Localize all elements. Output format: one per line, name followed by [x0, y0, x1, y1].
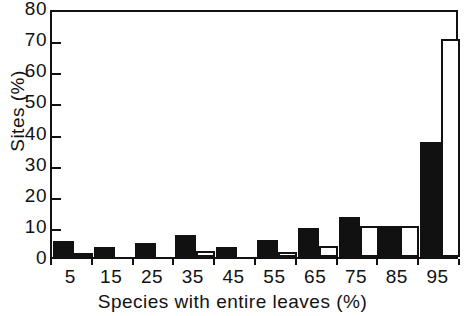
x-tick-mark [132, 259, 134, 265]
y-axis-tick-labels: 01020304050607080 [0, 0, 47, 316]
x-tick-mark [417, 259, 419, 265]
x-tick-label: 35 [173, 266, 213, 288]
y-tick-label: 40 [0, 124, 47, 143]
bar-solid [94, 247, 115, 257]
x-tick-label: 45 [214, 266, 254, 288]
bar-open [278, 252, 297, 257]
y-tick-mark [52, 104, 61, 106]
y-tick-label: 80 [0, 0, 47, 18]
bar-open [74, 253, 93, 257]
x-axis-label: Species with entire leaves (%) [0, 291, 465, 313]
y-tick-label: 0 [0, 248, 47, 267]
y-tick-label: 60 [0, 61, 47, 80]
bar-open [400, 226, 419, 257]
x-tick-mark [91, 259, 93, 265]
x-tick-mark [213, 259, 215, 265]
bar-solid [53, 241, 74, 257]
x-tick-mark [172, 259, 174, 265]
bar-solid [216, 247, 237, 257]
y-tick-mark [52, 229, 61, 231]
x-tick-mark [254, 259, 256, 265]
x-tick-label: 15 [91, 266, 131, 288]
bar-solid [135, 243, 156, 257]
x-tick-label: 75 [336, 266, 376, 288]
y-tick-label: 10 [0, 217, 47, 236]
bar-solid [339, 217, 360, 257]
bar-open [441, 39, 460, 257]
bar-open [360, 226, 379, 257]
y-tick-mark [52, 73, 61, 75]
bar-open [196, 251, 215, 257]
y-tick-mark [52, 198, 61, 200]
x-tick-mark [295, 259, 297, 265]
x-tick-label: 25 [132, 266, 172, 288]
bar-solid [379, 226, 400, 257]
x-axis-tick-labels: 5152535455565758595 [50, 266, 458, 290]
x-tick-mark [336, 259, 338, 265]
x-tick-label: 55 [254, 266, 294, 288]
x-tick-label: 95 [418, 266, 458, 288]
bar-solid [175, 235, 196, 257]
x-tick-mark [376, 259, 378, 265]
y-tick-label: 30 [0, 155, 47, 174]
bar-group [52, 12, 456, 257]
y-tick-mark [52, 136, 61, 138]
y-tick-label: 70 [0, 30, 47, 49]
x-tick-mark [458, 259, 460, 265]
y-tick-label: 50 [0, 92, 47, 111]
bar-solid [420, 142, 441, 257]
y-tick-label: 20 [0, 186, 47, 205]
y-tick-mark [52, 167, 61, 169]
x-tick-mark [50, 259, 52, 265]
bar-open [319, 246, 338, 257]
bar-solid [298, 228, 319, 257]
chart-figure: Sites (%) 01020304050607080 515253545556… [0, 0, 465, 316]
x-tick-label: 65 [295, 266, 335, 288]
bar-solid [257, 240, 278, 257]
x-tick-label: 5 [50, 266, 90, 288]
plot-area [50, 10, 458, 259]
x-tick-label: 85 [377, 266, 417, 288]
y-tick-mark [52, 42, 61, 44]
